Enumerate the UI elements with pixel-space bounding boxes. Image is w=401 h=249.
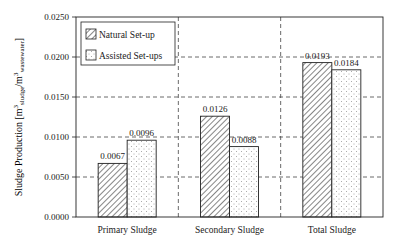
legend-swatch [86, 29, 96, 39]
y-tick-label: 0.0100 [44, 132, 69, 142]
x-category-label: Primary Sludge [97, 225, 156, 235]
bar-natural [98, 163, 127, 217]
bar-value-label: 0.0184 [334, 58, 359, 68]
bars: 0.00670.00960.01260.00880.01930.0184 [98, 51, 361, 217]
y-axis-label: Sludge Production [m3sludge/m3wastewater… [12, 38, 26, 196]
x-category-label: Total Sludge [308, 225, 356, 235]
y-axis-title: Sludge Production [m3sludge/m3wastewater… [12, 38, 26, 196]
legend-label: Natural Set-up [99, 30, 155, 40]
legend-swatch [86, 50, 96, 60]
bar-value-label: 0.0126 [203, 104, 228, 114]
bar-value-label: 0.0096 [129, 128, 154, 138]
bar-value-label: 0.0193 [305, 51, 330, 61]
legend: Natural Set-upAssisted Set-ups [81, 22, 175, 65]
bar-value-label: 0.0067 [100, 151, 125, 161]
y-tick-label: 0.0050 [44, 172, 69, 182]
bar-natural [303, 63, 332, 217]
legend-label: Assisted Set-ups [99, 51, 162, 61]
bar-value-label: 0.0088 [232, 135, 257, 145]
y-tick-label: 0.0200 [44, 52, 69, 62]
y-tick-label: 0.0250 [44, 12, 69, 22]
bar-natural [201, 116, 230, 217]
bar-assisted [127, 140, 156, 217]
bar-assisted [230, 147, 259, 217]
y-tick-label: 0.0150 [44, 92, 69, 102]
bar-chart: 0.00670.00960.01260.00880.01930.0184 0.0… [0, 0, 401, 249]
bar-assisted [332, 70, 361, 217]
x-category-label: Secondary Sludge [195, 225, 264, 235]
y-tick-label: 0.0000 [44, 212, 69, 222]
